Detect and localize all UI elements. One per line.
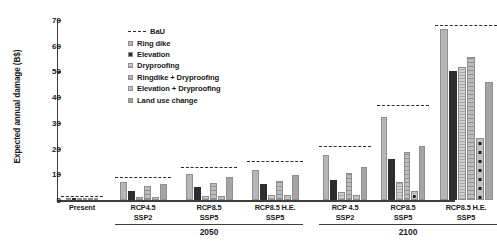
- bar-group: [435, 20, 497, 200]
- bar-group-bars: [61, 20, 103, 200]
- x-axis-category-line: RCP4.5: [115, 203, 171, 213]
- legend-swatch: [128, 86, 133, 91]
- x-axis-category-line: RCP8.5 H.E.: [435, 203, 497, 213]
- bar: [458, 67, 466, 200]
- era-rule: [115, 224, 303, 225]
- x-axis-category-line: SSP5: [377, 213, 429, 223]
- bau-reference-line: [181, 167, 237, 168]
- bar-group: [319, 20, 371, 200]
- bar: [330, 180, 337, 200]
- legend-dashed-line-swatch: [128, 31, 146, 32]
- legend-item[interactable]: BaU: [128, 26, 278, 37]
- era-rule: [319, 224, 497, 225]
- x-axis-category-line: SSP5: [247, 213, 303, 223]
- bar: [476, 138, 484, 200]
- x-axis-category-line: SSP5: [181, 213, 237, 223]
- bau-reference-line: [61, 196, 103, 197]
- legend-item-label: Ringdike + Dryproofing: [137, 73, 219, 82]
- x-axis-line: [57, 200, 455, 202]
- x-axis-category-label: RCP8.5SSP5: [181, 203, 237, 222]
- x-axis-category-line: RCP8.5: [181, 203, 237, 213]
- legend-item-label: Elevation + Dryproofing: [137, 84, 221, 93]
- bar: [338, 192, 345, 200]
- bar: [485, 82, 493, 200]
- legend-item-label: BaU: [150, 27, 165, 36]
- x-axis-category-label: RCP8.5 H.E.SSP5: [435, 203, 497, 222]
- legend-swatch: [128, 63, 133, 68]
- x-axis-category-line: SSP2: [319, 213, 371, 223]
- bar: [128, 191, 135, 200]
- bar: [194, 187, 201, 200]
- legend-item[interactable]: Ringdike + Dryproofing: [128, 72, 278, 83]
- bar-group-bars: [319, 20, 371, 200]
- x-axis-category-label: RCP8.5 H.E.SSP5: [247, 203, 303, 222]
- x-axis-category-line: SSP2: [115, 213, 171, 223]
- x-axis-category-line: RCP8.5: [377, 203, 429, 213]
- legend-item-label: Land use change: [137, 96, 198, 105]
- legend-swatch: [128, 75, 133, 80]
- bar: [381, 117, 388, 200]
- bar: [83, 198, 88, 200]
- legend-item-label: Elevation: [137, 50, 170, 59]
- bar: [77, 198, 82, 200]
- legend-item-label: Ring dike: [137, 39, 170, 48]
- bar: [467, 57, 475, 200]
- x-axis-category-label: RCP8.5SSP5: [377, 203, 429, 222]
- bau-reference-line: [319, 146, 371, 147]
- bar: [276, 181, 283, 200]
- legend-item[interactable]: Elevation: [128, 49, 278, 60]
- bar: [160, 184, 167, 200]
- bar-group-bars: [435, 20, 497, 200]
- bar-group: [377, 20, 429, 200]
- legend-item-label: Dryproofing: [137, 61, 179, 70]
- bar: [218, 196, 225, 200]
- legend-item[interactable]: Elevation + Dryproofing: [128, 83, 278, 94]
- bar: [411, 191, 418, 200]
- bar-group-bars: [377, 20, 429, 200]
- bar: [120, 182, 127, 201]
- bar: [252, 170, 259, 200]
- x-axis-category-label: Present: [61, 203, 103, 213]
- chart-legend: BaURing dikeElevationDryproofingRingdike…: [128, 26, 278, 106]
- bar: [292, 175, 299, 200]
- era-label: 2100: [319, 227, 497, 237]
- bar: [66, 198, 71, 200]
- bar: [388, 159, 395, 200]
- legend-swatch: [128, 98, 133, 103]
- y-axis-title: Expected annual damage (B$): [13, 27, 22, 187]
- bar: [396, 182, 403, 200]
- legend-swatch: [128, 52, 133, 57]
- x-axis-category-line: SSP5: [435, 213, 497, 223]
- x-axis-category-line: RCP8.5 H.E.: [247, 203, 303, 213]
- bau-reference-line: [115, 177, 171, 178]
- bar: [88, 198, 93, 200]
- bar: [284, 195, 291, 200]
- bar: [449, 71, 457, 200]
- legend-item[interactable]: Ring dike: [128, 37, 278, 48]
- x-axis-category-line: RCP 4.5: [319, 203, 371, 213]
- bar: [419, 146, 426, 200]
- bar: [226, 177, 233, 200]
- bar: [440, 29, 448, 200]
- bar: [260, 184, 267, 200]
- era-label: 2050: [115, 227, 303, 237]
- bar-group: [61, 20, 103, 200]
- bau-reference-line: [377, 105, 429, 106]
- x-axis-category-label: RCP 4.5SSP2: [319, 203, 371, 222]
- x-axis-category-line: Present: [61, 203, 103, 213]
- bar: [186, 174, 193, 200]
- x-axis-category-label: RCP4.5SSP2: [115, 203, 171, 222]
- bar: [136, 197, 143, 200]
- bar: [268, 195, 275, 200]
- bar: [144, 186, 151, 200]
- bar: [202, 196, 209, 200]
- bar: [323, 155, 330, 200]
- bau-reference-line: [247, 161, 303, 162]
- bar: [152, 197, 159, 200]
- bar: [94, 198, 99, 200]
- legend-item[interactable]: Land use change: [128, 94, 278, 105]
- legend-item[interactable]: Dryproofing: [128, 60, 278, 71]
- bau-reference-line: [435, 25, 497, 26]
- bar: [210, 183, 217, 200]
